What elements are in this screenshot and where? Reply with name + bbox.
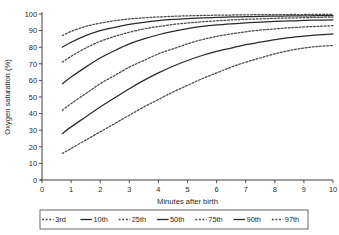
y-tick-label-10: 10	[29, 159, 37, 168]
x-tick-label-6: 6	[215, 185, 219, 194]
x-tick-label-5: 5	[185, 185, 189, 194]
oxygen-saturation-percentile-chart: 0102030405060708090100012345678910Minute…	[0, 0, 339, 235]
legend-label-10th: 10th	[93, 215, 107, 224]
x-tick-label-9: 9	[302, 185, 306, 194]
legend-label-50th: 50th	[170, 215, 184, 224]
x-tick-label-7: 7	[244, 185, 248, 194]
x-tick-label-2: 2	[98, 185, 102, 194]
y-tick-label-40: 40	[29, 109, 37, 118]
x-tick-label-1: 1	[69, 185, 73, 194]
x-axis-title: Minutes after birth	[157, 197, 218, 206]
y-axis-title: Oxygen saturation (%)	[3, 59, 12, 135]
x-tick-label-0: 0	[40, 185, 44, 194]
curve-25th-percentile	[62, 26, 333, 111]
legend-label-90th: 90th	[247, 215, 261, 224]
curve-3rd-percentile	[62, 46, 333, 154]
x-tick-label-4: 4	[156, 185, 160, 194]
curve-10th-percentile	[62, 34, 333, 134]
y-tick-label-90: 90	[29, 26, 37, 35]
y-tick-label-100: 100	[25, 10, 37, 19]
y-tick-label-0: 0	[33, 176, 37, 185]
x-tick-label-10: 10	[329, 185, 337, 194]
y-tick-label-50: 50	[29, 93, 37, 102]
y-tick-label-60: 60	[29, 76, 37, 85]
y-tick-label-20: 20	[29, 143, 37, 152]
legend-label-75th: 75th	[208, 215, 222, 224]
plot-area: 0102030405060708090100012345678910Minute…	[3, 10, 337, 229]
curve-75th-percentile	[62, 17, 333, 62]
legend-label-97th: 97th	[285, 215, 299, 224]
y-tick-label-30: 30	[29, 126, 37, 135]
y-tick-label-70: 70	[29, 60, 37, 69]
x-tick-label-3: 3	[127, 185, 131, 194]
x-tick-label-8: 8	[273, 185, 277, 194]
y-tick-label-80: 80	[29, 43, 37, 52]
legend-label-25th: 25th	[132, 215, 146, 224]
legend-label-3rd: 3rd	[55, 215, 66, 224]
